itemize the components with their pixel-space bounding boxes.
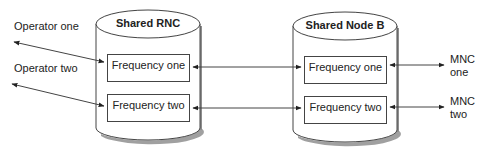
mnc-one-label-line1: MNC (450, 53, 475, 66)
nodeb-frequency-two-label: Frequency two (305, 101, 386, 113)
nodeb-title: Shared Node B (293, 19, 397, 31)
operator-two-arrow (12, 84, 104, 106)
operator-two-label: Operator two (14, 62, 78, 75)
rnc-frequency-two-box: Frequency two (107, 94, 190, 122)
rnc-frequency-one-label: Frequency one (108, 59, 189, 71)
operator-one-arrow (14, 42, 104, 62)
rnc-frequency-one-box: Frequency one (107, 54, 190, 82)
operator-one-label: Operator one (14, 20, 79, 33)
nodeb-frequency-two-box: Frequency two (304, 96, 387, 124)
mnc-two-label-line2: two (450, 108, 467, 121)
rnc-title: Shared RNC (96, 17, 200, 29)
nodeb-frequency-one-label: Frequency one (305, 61, 386, 73)
mnc-two-label-line1: MNC (450, 95, 475, 108)
mnc-one-label-line2: one (450, 66, 468, 79)
rnc-frequency-two-label: Frequency two (108, 99, 189, 111)
nodeb-frequency-one-box: Frequency one (304, 56, 387, 84)
